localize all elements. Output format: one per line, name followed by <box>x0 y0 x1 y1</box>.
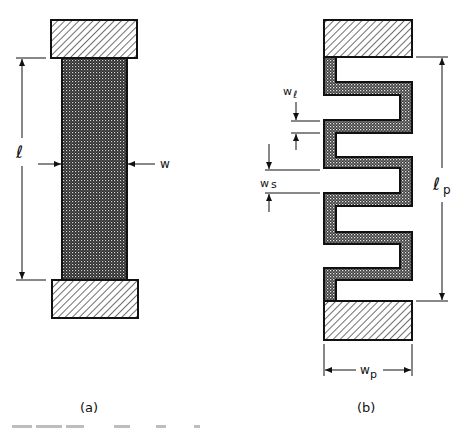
panel-a-label: (a) <box>80 400 98 415</box>
bottom-contact-pad <box>324 301 412 340</box>
length-subscript: p <box>443 183 451 197</box>
panel-a: ℓ w (a) <box>15 20 170 415</box>
serpentine-strip <box>324 57 412 301</box>
pad-width-dimension: w p <box>324 344 412 381</box>
line-width-label: w <box>283 85 292 98</box>
panel-b-label: (b) <box>357 400 375 415</box>
top-contact-pad <box>51 20 137 58</box>
diagram-canvas: ℓ w (a) ℓ p w ℓ <box>0 0 462 428</box>
line-width-subscript: ℓ <box>293 89 297 100</box>
top-contact-pad <box>324 20 412 57</box>
length-dimension: ℓ <box>15 58 46 280</box>
length-dimension: ℓ p <box>416 57 451 301</box>
line-width-dimension: w ℓ <box>283 85 320 150</box>
panel-b: ℓ p w ℓ w s w p <box>260 20 451 415</box>
pad-width-subscript: p <box>370 368 377 381</box>
spacing-subscript: s <box>271 178 277 191</box>
spacing-label: w <box>260 177 269 190</box>
straight-strip <box>62 58 127 280</box>
pad-width-label: w <box>360 363 370 377</box>
length-label: ℓ <box>15 142 23 162</box>
length-label: ℓ <box>432 174 440 194</box>
bottom-contact-pad <box>52 280 138 318</box>
spacing-dimension: w s <box>260 144 320 212</box>
width-label: w <box>160 157 170 171</box>
